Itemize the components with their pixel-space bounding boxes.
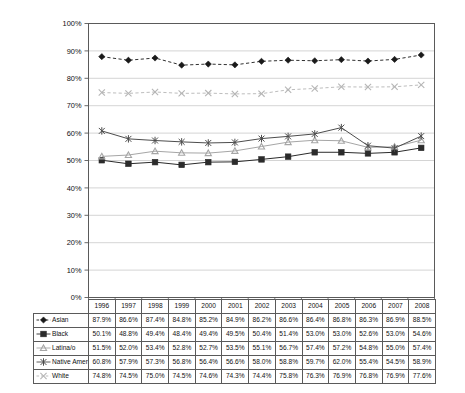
data-point-1-2 [152,159,158,165]
data-cell: 74.3% [222,370,249,384]
data-cell: 52.8% [169,342,196,356]
data-cell: 58.8% [275,356,302,370]
data-cell: 51.5% [89,342,116,356]
asterisk-legend-svg [36,358,51,366]
legend-marker [40,317,46,323]
series-line-4 [102,85,421,94]
data-cell: 53.0% [329,328,356,342]
data-cell: 52.7% [195,342,222,356]
data-cell: 86.4% [302,314,329,328]
data-cell: 57.4% [409,342,436,356]
asterisk-marker-icon [36,358,51,366]
data-point-0-11 [391,56,397,62]
data-point-0-5 [232,62,238,68]
data-point-1-1 [126,161,132,167]
data-point-3-12 [418,132,424,139]
data-point-0-3 [179,62,185,68]
data-point-4-12 [418,82,424,88]
legend-marker [41,331,47,337]
data-cell: 50.4% [249,328,276,342]
table-row: White74.8%74.5%75.0%74.5%74.6%74.3%74.4%… [34,370,436,384]
y-axis-label-80: 80% [67,74,82,83]
data-point-1-7 [285,154,291,160]
legend-row-asian: Asian [34,314,89,328]
triangle-legend-svg [36,344,51,352]
data-cell: 52.0% [115,342,142,356]
data-cell: 86.2% [249,314,276,328]
y-axis-label-60: 60% [67,129,82,138]
y-axis-label-100: 100% [63,19,82,28]
y-axis-label-10: 10% [67,266,82,275]
data-point-4-11 [391,84,397,90]
column-header-1998: 1998 [142,300,169,314]
series-name-label: Asian [52,317,69,324]
data-cell: 53.5% [222,342,249,356]
column-header-2006: 2006 [355,300,382,314]
data-point-0-9 [338,57,344,63]
y-axis-label-70: 70% [67,101,82,110]
data-point-4-7 [285,87,291,93]
data-cell: 85.2% [195,314,222,328]
diamond-legend-svg [36,316,51,324]
series-name-label: Latina/o [52,345,75,352]
data-point-3-0 [99,127,105,134]
data-cell: 48.8% [115,328,142,342]
data-point-0-4 [205,61,211,67]
y-axis-label-30: 30% [67,211,82,220]
square-marker-icon [36,330,51,338]
data-cell: 53.0% [382,328,409,342]
data-cell: 86.8% [329,314,356,328]
data-point-1-0 [99,157,105,163]
column-header-1996: 1996 [89,300,116,314]
x-legend-svg [36,372,51,380]
legend-row-native-american: Native American [34,356,89,370]
data-point-0-12 [418,52,424,58]
data-point-1-4 [205,159,211,165]
data-cell: 49.4% [142,328,169,342]
data-cell: 55.4% [355,356,382,370]
data-cell: 57.3% [142,356,169,370]
data-cell: 57.9% [115,356,142,370]
data-cell: 56.8% [169,356,196,370]
data-cell: 76.3% [302,370,329,384]
data-point-4-3 [179,90,185,96]
data-cell: 62.0% [329,356,356,370]
data-point-0-6 [258,58,264,64]
data-point-1-3 [179,162,185,168]
data-cell: 84.9% [222,314,249,328]
data-cell: 57.4% [302,342,329,356]
y-axis-label-20: 20% [67,238,82,247]
data-cell: 48.4% [169,328,196,342]
table-row: Asian87.9%86.6%87.4%84.8%85.2%84.9%86.2%… [34,314,436,328]
data-cell: 58.0% [249,356,276,370]
data-cell: 51.4% [275,328,302,342]
data-cell: 74.8% [89,370,116,384]
data-cell: 74.4% [249,370,276,384]
data-cell: 53.4% [142,342,169,356]
column-header-2007: 2007 [382,300,409,314]
data-point-1-9 [339,149,345,155]
data-cell: 75.0% [142,370,169,384]
data-table: 1996199719981999200020012002200320042005… [33,299,436,384]
data-cell: 74.6% [195,370,222,384]
data-point-0-1 [125,57,131,63]
data-cell: 55.1% [249,342,276,356]
column-header-2005: 2005 [329,300,356,314]
data-cell: 86.6% [275,314,302,328]
data-cell: 76.9% [329,370,356,384]
data-cell: 49.4% [195,328,222,342]
data-point-1-10 [365,151,371,157]
data-point-0-2 [152,55,158,61]
data-cell: 56.4% [195,356,222,370]
data-cell: 52.6% [355,328,382,342]
data-cell: 56.6% [222,356,249,370]
data-cell: 57.2% [329,342,356,356]
square-legend-svg [36,330,51,338]
data-table-head: 1996199719981999200020012002200320042005… [34,300,436,314]
data-table-body: Asian87.9%86.6%87.4%84.8%85.2%84.9%86.2%… [34,314,436,384]
column-header-2000: 2000 [195,300,222,314]
data-point-1-5 [232,159,238,165]
chart-data-table: 1996199719981999200020012002200320042005… [33,299,435,384]
data-cell: 86.9% [382,314,409,328]
y-axis-label-50: 50% [67,156,82,165]
